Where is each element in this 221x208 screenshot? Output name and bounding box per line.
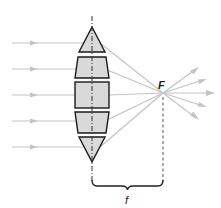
lens-diagram: F f bbox=[0, 0, 221, 208]
focal-length-label: f bbox=[125, 194, 129, 206]
arrow-icon bbox=[30, 145, 38, 150]
incident-arrowheads bbox=[30, 41, 38, 150]
arrow-icon bbox=[30, 119, 38, 124]
arrow-icon bbox=[190, 112, 199, 121]
arrow-icon bbox=[198, 102, 208, 107]
arrow-icon bbox=[198, 79, 208, 84]
focal-point-label: F bbox=[158, 79, 165, 91]
lens-segment-center-rectangle bbox=[75, 82, 109, 108]
incident-rays bbox=[12, 43, 85, 147]
arrow-icon bbox=[30, 93, 38, 98]
focal-length-brace bbox=[92, 180, 163, 190]
refracted-rays bbox=[100, 43, 210, 147]
arrow-icon bbox=[206, 90, 215, 96]
arrow-icon bbox=[30, 67, 38, 72]
arrow-icon bbox=[190, 67, 199, 75]
arrow-icon bbox=[30, 41, 38, 46]
